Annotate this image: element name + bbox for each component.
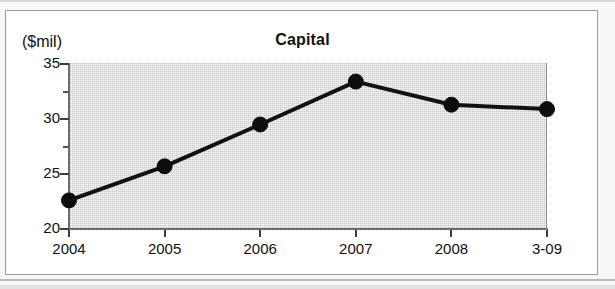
data-point-marker [540, 102, 555, 117]
scan-edge-top [0, 0, 615, 2]
series-line-capital [69, 82, 547, 201]
data-point-marker [444, 97, 459, 112]
series-markers-capital [62, 74, 555, 208]
data-point-marker [348, 74, 363, 89]
scan-edge-bottom-secondary [0, 285, 615, 289]
scan-edge-bottom [0, 279, 615, 281]
series-capital [6, 11, 599, 276]
data-point-marker [62, 193, 77, 208]
chart-frame: ($mil) Capital 35302520 2004200520062007… [5, 10, 598, 275]
data-point-marker [253, 117, 268, 132]
figure-root: ($mil) Capital 35302520 2004200520062007… [0, 0, 615, 289]
data-point-marker [157, 159, 172, 174]
